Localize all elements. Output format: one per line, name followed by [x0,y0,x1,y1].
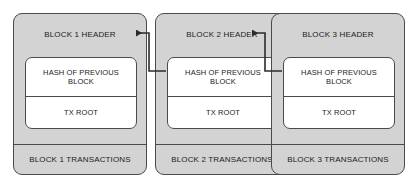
block-3-hash-cell: HASH OF PREVIOUS BLOCK [284,58,394,97]
block-1: BLOCK 1 HEADER HASH OF PREVIOUS BLOCK TX… [13,13,147,175]
block-2-header-label: BLOCK 2 HEADER [186,30,257,39]
block-1-header-label: BLOCK 1 HEADER [44,30,115,39]
block-3-inner-box: HASH OF PREVIOUS BLOCK TX ROOT [283,57,395,129]
block-2-hash-label: HASH OF PREVIOUS BLOCK [168,68,278,87]
block-3-transactions-label: BLOCK 3 TRANSACTIONS [287,155,389,164]
block-3-hash-label: HASH OF PREVIOUS BLOCK [284,68,394,87]
block-2: BLOCK 2 HEADER HASH OF PREVIOUS BLOCK TX… [155,13,289,175]
block-3-transactions-section: BLOCK 3 TRANSACTIONS [272,144,404,174]
block-3: BLOCK 3 HEADER HASH OF PREVIOUS BLOCK TX… [271,13,405,175]
block-2-txroot-label: TX ROOT [202,108,244,118]
block-1-txroot-cell: TX ROOT [26,97,136,128]
block-1-transactions-section: BLOCK 1 TRANSACTIONS [14,144,146,174]
block-3-header: BLOCK 3 HEADER [272,14,404,54]
block-3-txroot-label: TX ROOT [318,108,360,118]
block-2-inner-box: HASH OF PREVIOUS BLOCK TX ROOT [167,57,279,129]
block-3-header-label: BLOCK 3 HEADER [302,30,373,39]
block-2-transactions-section: BLOCK 2 TRANSACTIONS [156,144,288,174]
block-2-hash-cell: HASH OF PREVIOUS BLOCK [168,58,278,97]
block-1-inner-box: HASH OF PREVIOUS BLOCK TX ROOT [25,57,137,129]
block-3-txroot-cell: TX ROOT [284,97,394,128]
block-1-hash-label: HASH OF PREVIOUS BLOCK [26,68,136,87]
block-1-transactions-label: BLOCK 1 TRANSACTIONS [29,155,131,164]
block-1-hash-cell: HASH OF PREVIOUS BLOCK [26,58,136,97]
block-2-transactions-label: BLOCK 2 TRANSACTIONS [171,155,273,164]
block-1-header: BLOCK 1 HEADER [14,14,146,54]
block-2-txroot-cell: TX ROOT [168,97,278,128]
blockchain-diagram-canvas: BLOCK 1 HEADER HASH OF PREVIOUS BLOCK TX… [0,0,418,190]
block-2-header: BLOCK 2 HEADER [156,14,288,54]
block-1-txroot-label: TX ROOT [60,108,102,118]
